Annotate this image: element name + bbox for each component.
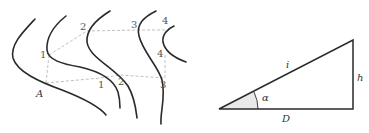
contour-line-1 [13,19,106,115]
triangle-outline [219,40,353,109]
label-hypotenuse-i: i [286,59,289,70]
label-upper-3: 3 [131,19,137,30]
label-upper-4: 4 [162,15,168,26]
label-upper-2: 2 [80,21,86,32]
label-lower-3: 3 [160,79,166,90]
label-point-A: A [35,88,43,99]
slope-triangle: i h α D [219,40,363,124]
label-base-D: D [281,113,290,124]
dashed-routes [46,30,165,83]
label-height-h: h [357,72,363,83]
contour-line-4 [138,11,163,124]
contour-line-3 [87,11,137,118]
label-upper-1: 1 [40,49,46,60]
label-lower-1: 1 [98,79,104,90]
contour-line-5 [163,26,186,62]
contour-map: 1 2 3 4 4 1 2 3 A [13,11,186,124]
dashed-route-upper [49,30,165,55]
dashed-route-A-to-1 [46,55,49,83]
label-right-4: 4 [157,48,163,59]
diagram-canvas: 1 2 3 4 4 1 2 3 A i h α D [0,0,369,133]
label-angle-alpha: α [262,92,269,103]
label-lower-2: 2 [118,76,124,87]
